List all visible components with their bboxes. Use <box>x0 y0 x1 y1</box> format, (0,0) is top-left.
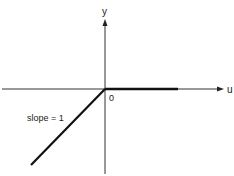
negative-branch-line <box>31 89 105 165</box>
y-axis-arrow-icon <box>103 19 108 26</box>
u-axis-label: u <box>227 84 233 95</box>
function-diagram: y u 0 slope = 1 <box>0 0 234 176</box>
y-axis-label: y <box>102 6 107 17</box>
slope-label: slope = 1 <box>27 113 64 123</box>
origin-label: 0 <box>109 93 114 103</box>
u-axis-arrow-icon <box>217 87 224 92</box>
